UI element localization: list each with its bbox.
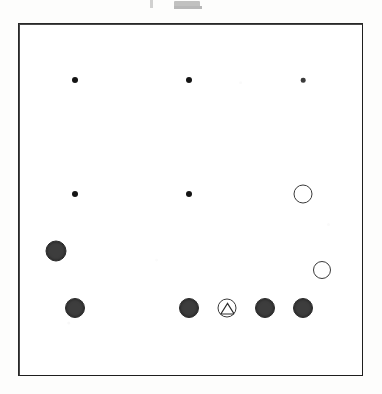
white-stone[interactable] (294, 185, 313, 204)
black-stone[interactable] (255, 298, 275, 318)
stone-layer[interactable] (10, 15, 372, 387)
black-stone[interactable] (293, 298, 313, 318)
remnant-mark-3 (174, 6, 202, 9)
white-stone[interactable] (313, 261, 331, 279)
black-stone[interactable] (46, 241, 67, 262)
black-stone[interactable] (179, 298, 199, 318)
remnant-mark-1 (150, 0, 153, 8)
go-board[interactable] (10, 15, 372, 387)
triangle-marker-icon (220, 302, 235, 315)
diagram-page (0, 0, 382, 394)
black-stone[interactable] (65, 298, 85, 318)
scan-header-remnant (148, 0, 208, 9)
white-stone-marked[interactable] (218, 299, 237, 318)
